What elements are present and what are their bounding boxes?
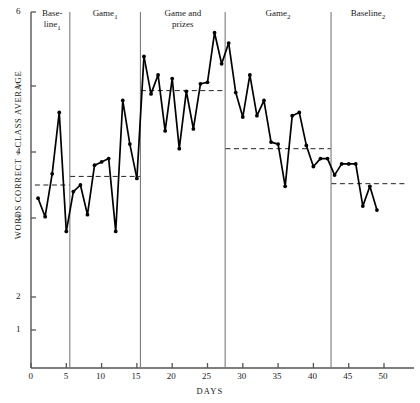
data-point (319, 157, 323, 161)
data-point (276, 142, 280, 146)
y-tick-label-2: 2 (16, 291, 21, 301)
y-tick-label-4: 4 (16, 146, 21, 156)
data-point (135, 177, 139, 181)
x-tick-label-25: 25 (202, 371, 211, 381)
data-point (100, 160, 104, 164)
x-tick-label-30: 30 (237, 371, 246, 381)
x-tick-label-10: 10 (96, 371, 105, 381)
data-point (86, 213, 90, 217)
data-point (71, 190, 75, 194)
data-point (177, 147, 181, 151)
line-chart-canvas (0, 0, 420, 403)
data-point (50, 172, 54, 176)
data-point (142, 55, 146, 59)
data-point (340, 162, 344, 166)
data-point (93, 163, 97, 167)
data-point (297, 111, 301, 115)
data-point (220, 62, 224, 66)
data-point (354, 162, 358, 166)
x-tick-label-20: 20 (167, 371, 176, 381)
data-point (206, 80, 210, 84)
data-point (79, 183, 83, 187)
y-tick-label-5: 5 (16, 80, 21, 90)
x-tick-label-15: 15 (131, 371, 140, 381)
x-axis-title: DAYS (0, 386, 420, 396)
data-point (333, 173, 337, 177)
data-point (114, 230, 118, 234)
data-point (128, 142, 132, 146)
data-point (227, 41, 231, 45)
data-point (57, 111, 61, 115)
data-point (290, 114, 294, 118)
data-point (312, 165, 316, 169)
data-point (262, 99, 266, 103)
data-point (191, 127, 195, 131)
data-point (234, 91, 238, 95)
data-point (368, 184, 372, 188)
data-point (304, 144, 308, 148)
y-tick-label-1: 1 (16, 324, 21, 334)
data-point (326, 157, 330, 161)
data-point (156, 73, 160, 77)
x-tick-label-40: 40 (308, 371, 317, 381)
data-point (283, 184, 287, 188)
data-point (361, 204, 365, 208)
data-point (375, 208, 379, 212)
data-point (213, 31, 217, 35)
y-tick-label-6: 6 (16, 6, 21, 16)
phase-divider-layer (70, 12, 331, 368)
data-point (43, 215, 47, 219)
data-point (199, 82, 203, 86)
x-tick-label-5: 5 (64, 371, 69, 381)
data-point (163, 129, 167, 133)
data-series-layer (36, 31, 379, 234)
data-point (64, 230, 68, 234)
data-point (107, 157, 111, 161)
y-tick-label-3: 3 (16, 212, 21, 222)
x-tick-label-0: 0 (29, 371, 34, 381)
x-tick-label-45: 45 (343, 371, 352, 381)
data-point (36, 196, 40, 200)
phase-label-4: Game2 (232, 8, 324, 23)
data-point (248, 73, 252, 77)
data-point (241, 115, 245, 119)
phase-mean-line-layer (35, 91, 405, 185)
data-point (121, 99, 125, 103)
x-tick-label-50: 50 (379, 371, 388, 381)
data-point (184, 89, 188, 93)
data-point (149, 92, 153, 96)
data-point (170, 77, 174, 81)
phase-label-5: Baseline2 (322, 8, 414, 23)
x-tick-label-35: 35 (273, 371, 282, 381)
phase-data-line-2 (73, 101, 137, 232)
data-point (269, 140, 273, 144)
phase-label-3: Game andprizes (137, 8, 229, 30)
data-point (255, 114, 259, 118)
data-point (347, 162, 351, 166)
